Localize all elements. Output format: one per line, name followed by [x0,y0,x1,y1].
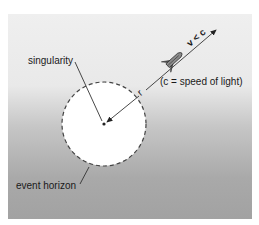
singularity-point [102,122,105,125]
radius-label: r [135,87,145,98]
velocity-label: v < c [184,26,207,48]
black-hole-diagram: singularity event horizon r v < c (c = s… [0,0,259,225]
rocket-icon [161,48,186,72]
singularity-label: singularity [28,55,73,66]
event-horizon-leader-line [80,167,89,184]
event-horizon-label: event horizon [16,180,76,191]
speed-of-light-note: (c = speed of light) [160,76,243,87]
